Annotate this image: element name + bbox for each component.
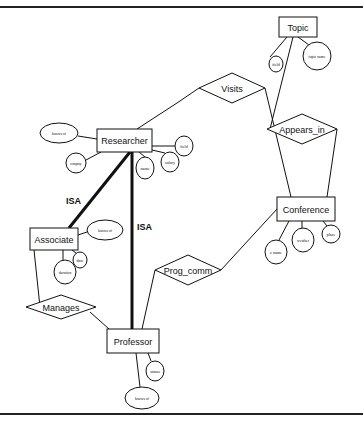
entity-researcher: Researcher [97, 129, 152, 152]
edge [137, 103, 177, 129]
attribute-label: c name [270, 250, 282, 255]
attribute-topic-field: field [269, 56, 283, 72]
entity-label: Topic [287, 23, 309, 33]
edge [142, 270, 155, 329]
edge [323, 221, 327, 226]
edge [270, 37, 293, 129]
attribute-associate-duration: duration [54, 260, 76, 284]
attribute-label: topic name [309, 55, 326, 59]
entity-topic: Topic [279, 17, 317, 37]
edge [152, 150, 165, 153]
edge [148, 353, 151, 361]
attribute-conference-c-name: c name [265, 240, 287, 264]
relationship-label: Manages [42, 303, 80, 313]
attribute-label: knows of [135, 397, 150, 401]
entity-conference: Conference [277, 197, 335, 221]
attribute-label: field [180, 144, 189, 149]
edge [279, 221, 289, 240]
relationship-label: Visits [221, 84, 243, 94]
attribute-label: salary [165, 160, 176, 165]
attribute-label: name [140, 166, 149, 171]
er-diagram: VisitsAppears_inProg_commManages TopicRe… [0, 0, 363, 429]
edge [86, 152, 101, 160]
attribute-conference-weather: weather [292, 228, 314, 252]
entity-label: Associate [34, 235, 73, 245]
attributes-layer: fieldtopic nameknows ofcmpnynamesalaryfi… [40, 42, 340, 409]
attribute-label: weather [297, 239, 310, 243]
attribute-researcher-name: name [136, 157, 154, 179]
attribute-topic-name: topic name [303, 42, 331, 70]
er-diagram-canvas: VisitsAppears_inProg_commManages TopicRe… [0, 0, 363, 429]
attribute-researcher-cmpny: cmpny [66, 153, 86, 173]
relationship-label: Appears_in [279, 125, 325, 135]
edge [327, 129, 337, 197]
edge [177, 88, 199, 103]
entity-associate: Associate [30, 228, 78, 250]
attribute-professor-status: status [146, 361, 164, 381]
edge [34, 250, 40, 307]
isa-associate-label: ISA [66, 196, 82, 206]
entity-label: Conference [283, 205, 330, 215]
attribute-label: status [150, 369, 160, 374]
edge [139, 152, 145, 157]
edge [90, 312, 109, 329]
attribute-label: field [272, 62, 281, 67]
attribute-researcher-salary: salary [161, 152, 179, 172]
attribute-associate-date: date [73, 252, 87, 268]
attribute-label: date [77, 258, 84, 263]
attribute-label: place [327, 232, 336, 237]
edge [136, 353, 140, 387]
edge [298, 37, 309, 45]
attribute-label: knows of [52, 132, 67, 136]
attribute-label: knows of [98, 229, 113, 233]
entity-label: Professor [114, 337, 153, 347]
edge [265, 88, 291, 197]
relationship-visits: Visits [199, 73, 265, 103]
edge [78, 136, 97, 139]
relationship-label: Prog_comm [164, 266, 213, 276]
entity-professor: Professor [107, 329, 159, 353]
edge [270, 37, 287, 57]
attribute-associate-knows-of: knows of [87, 220, 123, 240]
edge [78, 232, 87, 235]
isa-professor-label: ISA [137, 222, 153, 232]
relationship-manages: Manages [26, 295, 96, 319]
attribute-label: duration [59, 271, 72, 275]
entity-label: Researcher [101, 136, 148, 146]
attribute-conference-place: place [322, 225, 340, 243]
attribute-label: cmpny [70, 161, 82, 166]
attribute-researcher-knows-of: knows of [40, 123, 78, 143]
attribute-professor-knows-of: knows of [125, 387, 159, 409]
attribute-researcher-field: field [175, 136, 193, 156]
relationship-prog_comm: Prog_comm [155, 255, 221, 285]
